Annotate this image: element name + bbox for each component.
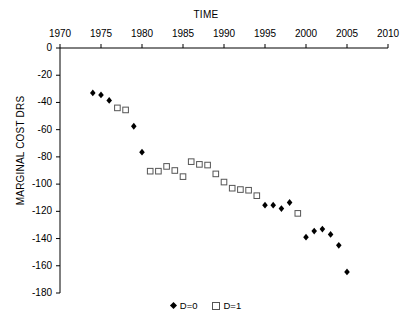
data-point-d-0 — [303, 234, 309, 241]
data-point-d-0 — [131, 123, 137, 130]
chart-legend: D=0 D=1 — [0, 300, 412, 311]
data-point-d-0 — [270, 202, 276, 209]
data-point-d-0 — [106, 97, 112, 104]
open-square-icon — [212, 302, 220, 310]
series-d-0-markers — [90, 90, 350, 276]
data-point-d-0 — [311, 228, 317, 235]
data-point-d-1 — [172, 168, 178, 174]
data-point-d-1 — [164, 164, 170, 170]
data-point-d-0 — [344, 269, 350, 276]
x-tick-label: 1995 — [245, 28, 285, 39]
legend-label-d-0: D=0 — [180, 300, 198, 311]
y-tick-label: -20 — [18, 69, 52, 80]
plot-area — [0, 0, 412, 323]
data-point-d-1 — [156, 168, 162, 174]
data-point-d-0 — [98, 92, 104, 99]
data-point-d-1 — [197, 162, 203, 168]
x-tick-label: 1990 — [204, 28, 244, 39]
data-point-d-0 — [279, 205, 285, 212]
data-point-d-0 — [262, 202, 268, 209]
x-tick-label: 1975 — [81, 28, 121, 39]
data-point-d-1 — [295, 211, 301, 217]
data-point-d-1 — [229, 185, 235, 191]
x-tick-label: 1970 — [40, 28, 80, 39]
x-axis-ticks — [60, 44, 388, 48]
data-point-d-0 — [320, 226, 326, 233]
data-point-d-1 — [123, 107, 129, 113]
data-point-d-1 — [180, 174, 186, 180]
data-point-d-0 — [336, 242, 342, 249]
legend-item-d-1: D=1 — [212, 300, 242, 311]
legend-item-d-0: D=0 — [171, 300, 198, 311]
y-tick-label: -40 — [18, 96, 52, 107]
data-point-d-0 — [90, 90, 96, 97]
x-tick-label: 1980 — [122, 28, 162, 39]
data-point-d-0 — [328, 231, 334, 238]
data-point-d-1 — [205, 162, 211, 168]
legend-label-d-1: D=1 — [224, 300, 242, 311]
series-d-1-markers — [115, 105, 301, 216]
data-point-d-1 — [213, 171, 219, 177]
x-tick-label: 1985 — [163, 28, 203, 39]
data-point-d-1 — [188, 159, 194, 165]
chart-container: TIME MARGINAL COST DRS 19701975198019851… — [0, 0, 412, 323]
y-tick-label: -80 — [18, 151, 52, 162]
x-tick-label: 2010 — [368, 28, 408, 39]
filled-diamond-icon — [170, 302, 177, 309]
y-tick-label: 0 — [18, 42, 52, 53]
data-point-d-0 — [287, 199, 293, 206]
x-tick-label: 2000 — [286, 28, 326, 39]
data-point-d-1 — [221, 179, 227, 185]
y-tick-label: -100 — [18, 178, 52, 189]
x-tick-label: 2005 — [327, 28, 367, 39]
data-point-d-0 — [139, 149, 145, 156]
y-tick-label: -60 — [18, 124, 52, 135]
data-point-d-1 — [238, 187, 244, 193]
data-point-d-1 — [246, 187, 252, 193]
y-axis-ticks — [56, 48, 60, 293]
data-point-d-1 — [147, 168, 153, 174]
y-tick-label: -120 — [18, 205, 52, 216]
data-point-d-1 — [254, 193, 260, 199]
axis-lines — [60, 48, 388, 293]
data-point-d-1 — [115, 105, 121, 111]
y-tick-label: -160 — [18, 260, 52, 271]
y-tick-label: -140 — [18, 233, 52, 244]
y-tick-label: -180 — [18, 287, 52, 298]
